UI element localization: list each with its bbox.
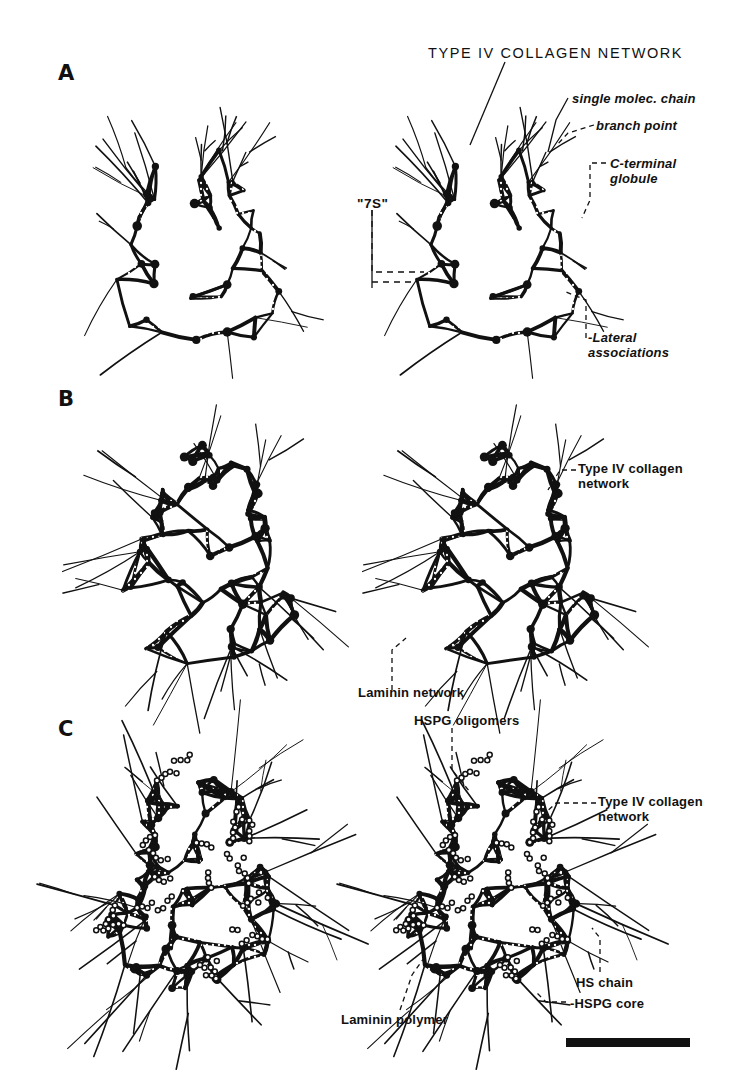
annotation-laminin-polymer: Laminin polymer [341,1013,448,1028]
annotation-single-molec-chain: single molec. chain [572,92,696,107]
figure-title: TYPE IV COLLAGEN NETWORK [428,45,683,61]
panel-b-right-network [362,405,648,733]
annotation-type-iv-collagen-network-c: Type IV collagen network [598,795,703,824]
annotation-type-iv-collagen-network-b: Type IV collagen network [578,462,683,491]
panel-b-left-network [62,405,348,733]
panel-letter-a: A [58,62,74,86]
panel-letter-b: B [58,388,74,412]
annotation-hs-chain: HS chain [576,976,633,991]
scale-bar [566,1038,690,1047]
annotation-c-terminal-globule: C-terminal globule [610,157,676,186]
figure-canvas: TYPE IV COLLAGEN NETWORK A B C single mo… [0,0,735,1089]
annotation-7s: "7S" [357,196,388,211]
panel-a-left-network [85,107,324,378]
annotation-laminin-network: Laminin network [358,686,464,701]
panel-letter-c: C [58,718,73,742]
annotation-branch-point: branch point [596,119,677,134]
annotation-hspg-core: -HSPG core [570,997,644,1012]
panel-c-left-network [37,700,368,1070]
annotation-lateral-associations: -Lateral associations [588,331,669,360]
annotation-hspg-oligomers: HSPG oligomers [414,714,519,729]
leader-lines [372,62,606,1010]
